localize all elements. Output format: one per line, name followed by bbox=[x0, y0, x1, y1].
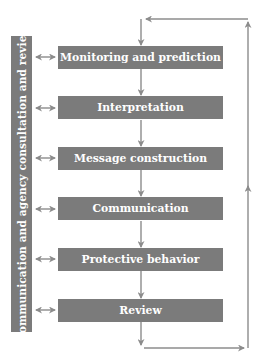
step-label: Protective behavior bbox=[82, 253, 200, 266]
step-label: Message construction bbox=[74, 152, 207, 165]
step-label: Communication bbox=[92, 202, 188, 215]
step-monitoring-and-prediction: Monitoring and prediction bbox=[58, 46, 223, 69]
step-label: Interpretation bbox=[97, 101, 184, 114]
step-communication: Communication bbox=[58, 197, 223, 220]
step-interpretation: Interpretation bbox=[58, 96, 223, 119]
step-label: Monitoring and prediction bbox=[60, 51, 221, 64]
consultation-review-bar: Communication and agency consultation an… bbox=[11, 36, 32, 332]
step-label: Review bbox=[119, 304, 161, 317]
consultation-review-label: Communication and agency consultation an… bbox=[16, 26, 28, 342]
step-message-construction: Message construction bbox=[58, 147, 223, 170]
step-protective-behavior: Protective behavior bbox=[58, 248, 223, 271]
step-review: Review bbox=[58, 299, 223, 322]
